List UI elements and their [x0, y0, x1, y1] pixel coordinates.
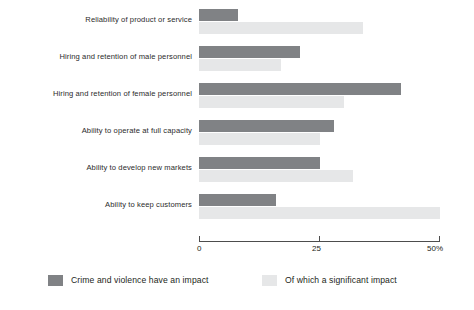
bar-pair [199, 45, 461, 75]
legend-label: Of which a significant impact [285, 275, 397, 285]
category-label: Ability to operate at full capacity [12, 126, 192, 136]
bar-group: Ability to keep customers [0, 193, 474, 223]
category-label: Ability to develop new markets [12, 163, 192, 173]
legend-item-primary: Crime and violence have an impact [48, 272, 209, 288]
bar-secondary [199, 22, 363, 34]
bar-secondary [199, 59, 281, 71]
legend-swatch-icon [48, 275, 63, 286]
bar-chart: Reliability of product or service Hiring… [0, 0, 474, 310]
axis-tick-50 [439, 236, 440, 241]
bar-pair [199, 193, 461, 223]
plot-area: Reliability of product or service Hiring… [0, 8, 474, 234]
legend-item-secondary: Of which a significant impact [262, 272, 397, 288]
bar-secondary [199, 96, 344, 108]
category-label: Hiring and retention of female personnel [12, 89, 192, 99]
bar-group: Ability to develop new markets [0, 156, 474, 186]
bar-secondary [199, 133, 320, 145]
bar-primary [199, 157, 320, 169]
chart-legend: Crime and violence have an impact Of whi… [0, 272, 474, 292]
axis-tick-25 [319, 236, 320, 241]
bar-primary [199, 120, 334, 132]
bar-secondary [199, 207, 440, 219]
bar-pair [199, 119, 461, 149]
bar-primary [199, 194, 276, 206]
bar-group: Hiring and retention of male personnel [0, 45, 474, 75]
bar-group: Reliability of product or service [0, 8, 474, 38]
bar-group: Ability to operate at full capacity [0, 119, 474, 149]
category-label: Reliability of product or service [12, 15, 192, 25]
bar-group: Hiring and retention of female personnel [0, 82, 474, 112]
category-label: Hiring and retention of male personnel [12, 52, 192, 62]
axis-tick-label-0: 0 [197, 244, 201, 253]
bar-pair [199, 156, 461, 186]
bar-pair [199, 82, 461, 112]
axis-tick-label-25: 25 [312, 244, 321, 253]
x-axis: 0 25 50% [199, 241, 440, 242]
bar-primary [199, 9, 238, 21]
bar-secondary [199, 170, 353, 182]
axis-tick-label-50: 50% [427, 244, 443, 253]
axis-tick-0 [199, 236, 200, 241]
category-label: Ability to keep customers [12, 200, 192, 210]
bar-pair [199, 8, 461, 38]
bar-primary [199, 46, 300, 58]
legend-swatch-icon [262, 275, 277, 286]
bar-primary [199, 83, 401, 95]
legend-label: Crime and violence have an impact [71, 275, 209, 285]
